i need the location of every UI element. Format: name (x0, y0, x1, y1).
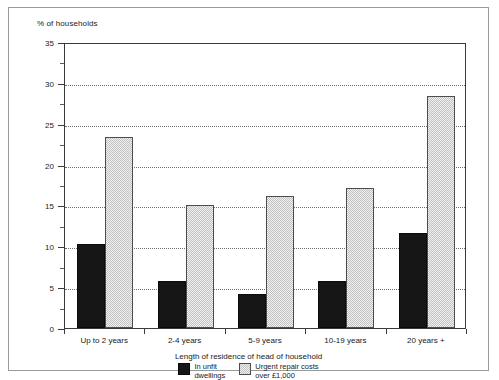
y-axis-minor-tick (60, 104, 64, 105)
y-axis-tick-label: 5 (24, 284, 54, 293)
x-axis-ticks (64, 329, 466, 335)
y-axis-tick-label: 25 (24, 120, 54, 129)
y-axis-tick-label: 10 (24, 243, 54, 252)
legend-item-urgent-repair: Urgent repair costs over £1,000 (239, 363, 318, 380)
bar (266, 196, 294, 328)
bar (77, 244, 105, 328)
x-axis-tick-label: 2-4 years (168, 336, 201, 345)
y-axis-tick (58, 288, 64, 289)
y-axis-tick (58, 206, 64, 207)
bar (318, 281, 346, 328)
y-axis-minor-tick (60, 227, 64, 228)
bars-layer (65, 44, 465, 328)
y-axis-tick-label: 35 (24, 39, 54, 48)
x-axis-tick (225, 329, 226, 334)
bar (238, 294, 266, 328)
bar (399, 233, 427, 328)
y-axis-tick-label: 20 (24, 161, 54, 170)
y-axis-tick (58, 125, 64, 126)
y-axis-tick-label: 15 (24, 202, 54, 211)
x-axis-tick (466, 329, 467, 334)
x-axis-tick-label: 20 years + (407, 336, 445, 345)
y-axis-minor-tick (60, 309, 64, 310)
legend-item-unfit: In unfit dwellings (178, 363, 225, 380)
y-axis-tick (58, 247, 64, 248)
chart-figure: % of households 05101520253035 Up to 2 y… (8, 7, 489, 371)
x-axis-tick (144, 329, 145, 334)
x-axis-tick (305, 329, 306, 334)
x-axis-tick-label: 5-9 years (248, 336, 281, 345)
x-axis-tick-label: 10-19 years (324, 336, 366, 345)
y-axis-minor-tick (60, 63, 64, 64)
y-axis-minor-tick (60, 186, 64, 187)
bar (158, 281, 186, 328)
y-axis-tick (58, 84, 64, 85)
x-axis-tick (386, 329, 387, 334)
x-axis-tick-label: Up to 2 years (80, 336, 128, 345)
legend-label-unfit: In unfit dwellings (194, 363, 225, 380)
y-axis-tick (58, 43, 64, 44)
bar (427, 96, 455, 328)
legend-label-urgent-repair: Urgent repair costs over £1,000 (255, 363, 318, 380)
y-axis-tick-label: 30 (24, 79, 54, 88)
chart-legend: In unfit dwellings Urgent repair costs o… (9, 363, 488, 380)
legend-swatch-urgent-repair (239, 363, 251, 375)
x-axis-tick-labels: Up to 2 years2-4 years5-9 years10-19 yea… (64, 336, 466, 350)
y-axis-label: % of households (37, 19, 98, 28)
x-axis-title: Length of residence of head of household (9, 352, 488, 361)
y-axis-minor-tick (60, 145, 64, 146)
bar (186, 205, 214, 328)
bar (346, 188, 374, 328)
legend-swatch-unfit (178, 363, 190, 375)
y-axis-tick-label: 0 (24, 325, 54, 334)
bar (105, 137, 133, 328)
y-axis-minor-tick (60, 268, 64, 269)
plot-area (64, 43, 466, 329)
y-axis-tick (58, 166, 64, 167)
x-axis-tick (64, 329, 65, 334)
